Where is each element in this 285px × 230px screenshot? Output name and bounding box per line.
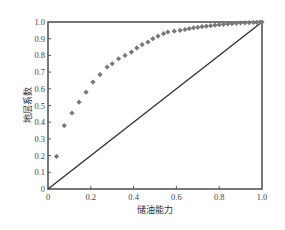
y-tick-label: 0.8	[34, 50, 45, 60]
y-tick-label: 0.2	[34, 151, 45, 161]
data-point	[247, 20, 252, 25]
data-point	[83, 90, 88, 95]
data-point	[62, 123, 67, 128]
data-point	[187, 26, 192, 31]
data-point	[195, 25, 200, 30]
data-point	[212, 23, 217, 28]
y-tick-label: 0.9	[34, 34, 45, 44]
data-point	[69, 110, 74, 115]
data-point	[90, 80, 95, 85]
data-point	[145, 39, 150, 44]
x-tick-label: 0	[46, 192, 50, 202]
data-point	[54, 154, 59, 159]
data-point	[155, 34, 160, 39]
x-tick-label: 0.6	[171, 192, 182, 202]
data-point	[191, 25, 196, 30]
data-point	[150, 36, 155, 41]
y-axis-label: 地层系数	[22, 87, 33, 123]
data-point	[129, 49, 134, 54]
x-tick-label: 1.0	[257, 192, 268, 202]
y-tick-label: 0.5	[34, 101, 45, 111]
chart: 00.20.40.60.81.000.10.20.30.40.50.60.70.…	[0, 0, 285, 230]
y-tick-label: 0	[41, 184, 45, 194]
data-point	[172, 29, 177, 34]
data-point	[122, 53, 127, 58]
data-points	[54, 19, 265, 159]
data-point	[208, 23, 213, 28]
diagonal-line	[48, 22, 262, 189]
data-point	[140, 42, 145, 47]
x-tick-label: 0.2	[85, 192, 96, 202]
data-point	[217, 22, 222, 27]
y-tick-label: 0.7	[34, 67, 45, 77]
data-point	[134, 45, 139, 50]
data-point	[199, 24, 204, 29]
data-point	[76, 100, 81, 105]
data-point	[204, 24, 209, 29]
data-point	[242, 20, 247, 25]
data-point	[110, 61, 115, 66]
y-tick-label: 0.6	[34, 84, 45, 94]
y-tick-label: 0.1	[34, 167, 45, 177]
data-point	[116, 56, 121, 61]
data-point	[238, 20, 243, 25]
x-tick-label: 0.8	[214, 192, 225, 202]
data-point	[97, 72, 102, 77]
data-point	[165, 29, 170, 34]
data-point	[104, 64, 109, 69]
x-axis-label: 储油能力	[137, 204, 173, 215]
x-tick-label: 0.4	[128, 192, 139, 202]
data-point	[161, 31, 166, 36]
data-point	[182, 27, 187, 32]
data-point	[177, 28, 182, 33]
y-tick-label: 0.4	[34, 117, 45, 127]
y-tick-label: 0.3	[34, 134, 45, 144]
y-tick-label: 1.0	[34, 17, 45, 27]
